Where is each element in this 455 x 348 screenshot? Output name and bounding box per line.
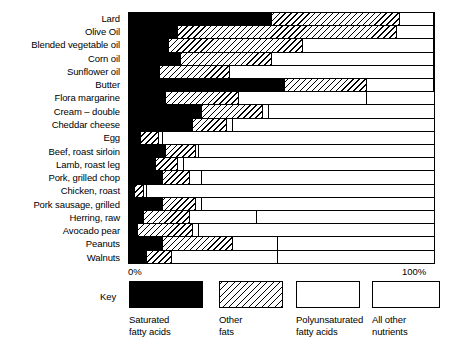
bar-row bbox=[129, 13, 434, 26]
legend-item: Other fats bbox=[219, 281, 293, 337]
legend-item: Polyunsaturated fatty acids bbox=[296, 281, 370, 337]
category-label: Egg bbox=[0, 131, 124, 144]
bar-segment bbox=[166, 145, 197, 157]
bar-segment bbox=[147, 251, 171, 263]
bar-segment bbox=[202, 171, 434, 183]
bar-segment bbox=[239, 92, 367, 104]
bar-segment bbox=[129, 211, 144, 223]
bar-segment bbox=[129, 224, 138, 236]
bar-segment bbox=[129, 39, 169, 51]
x-axis-tick-min: 0% bbox=[128, 266, 142, 277]
bar-segment bbox=[129, 171, 163, 183]
bar-row bbox=[129, 105, 434, 118]
bar-row bbox=[129, 237, 434, 250]
bar-segment bbox=[141, 132, 159, 144]
bar-row bbox=[129, 92, 434, 105]
bar-segment bbox=[278, 237, 434, 249]
legend-label: Other fats bbox=[219, 314, 293, 337]
bar-segment bbox=[400, 13, 434, 25]
bar-segment bbox=[285, 79, 367, 91]
bar-segment bbox=[190, 211, 257, 223]
category-label: Lard bbox=[0, 12, 124, 25]
category-label: Beef, roast sirloin bbox=[0, 145, 124, 158]
bar-segment bbox=[129, 251, 147, 263]
bar-segment bbox=[156, 158, 177, 170]
category-label: Lamb, roast leg bbox=[0, 158, 124, 171]
bar-segment bbox=[129, 132, 141, 144]
bar-segment bbox=[272, 53, 434, 65]
bar-rows bbox=[129, 13, 434, 263]
fat-composition-chart: LardOlive OilBlended vegetable oilCorn o… bbox=[0, 0, 455, 348]
bar-row bbox=[129, 185, 434, 198]
category-label: Pork, grilled chop bbox=[0, 171, 124, 184]
bar-segment bbox=[129, 26, 178, 38]
category-label: Pork sausage, grilled bbox=[0, 198, 124, 211]
bar-row bbox=[129, 66, 434, 79]
category-axis-labels: LardOlive OilBlended vegetable oilCorn o… bbox=[0, 12, 124, 264]
bar-segment bbox=[230, 66, 434, 78]
bar-segment bbox=[144, 211, 190, 223]
bar-row bbox=[129, 39, 434, 52]
category-label: Chicken, roast bbox=[0, 184, 124, 197]
category-label: Flora margarine bbox=[0, 92, 124, 105]
bar-segment bbox=[178, 26, 398, 38]
bar-segment bbox=[147, 185, 434, 197]
bar-segment bbox=[166, 92, 239, 104]
category-label: Walnuts bbox=[0, 251, 124, 264]
bar-row bbox=[129, 132, 434, 145]
legend-swatch bbox=[129, 281, 203, 308]
legend-swatch bbox=[296, 281, 360, 308]
bar-segment bbox=[163, 132, 434, 144]
bar-segment bbox=[129, 145, 166, 157]
legend-item: All other nutrients bbox=[372, 281, 446, 337]
bar-segment bbox=[129, 119, 193, 131]
bar-segment bbox=[163, 198, 197, 210]
bar-segment bbox=[190, 171, 202, 183]
bar-segment bbox=[129, 158, 156, 170]
bar-row bbox=[129, 198, 434, 211]
bar-segment bbox=[163, 237, 233, 249]
bar-segment bbox=[172, 251, 279, 263]
bar-segment bbox=[129, 105, 202, 117]
legend-item: Saturated fatty acids bbox=[129, 281, 203, 337]
bar-segment bbox=[257, 211, 434, 223]
bar-segment bbox=[129, 79, 285, 91]
bar-segment bbox=[367, 92, 434, 104]
bar-segment bbox=[199, 224, 434, 236]
bar-segment bbox=[233, 119, 434, 131]
bar-segment bbox=[138, 224, 193, 236]
bar-segment bbox=[129, 13, 272, 25]
category-label: Sunflower oil bbox=[0, 65, 124, 78]
legend-label: Saturated fatty acids bbox=[129, 314, 203, 337]
bar-segment bbox=[129, 92, 166, 104]
x-axis-tick-max: 100% bbox=[402, 266, 426, 277]
bar-segment bbox=[269, 105, 434, 117]
bar-segment bbox=[202, 105, 263, 117]
bar-row bbox=[129, 26, 434, 39]
category-label: Cheddar cheese bbox=[0, 118, 124, 131]
bar-row bbox=[129, 53, 434, 66]
category-label: Corn oil bbox=[0, 52, 124, 65]
category-label: Blended vegetable oil bbox=[0, 39, 124, 52]
category-label: Peanuts bbox=[0, 238, 124, 251]
bar-segment bbox=[163, 171, 190, 183]
legend-title: Key bbox=[100, 291, 116, 302]
bar-segment bbox=[129, 53, 181, 65]
bar-row bbox=[129, 145, 434, 158]
legend: Saturated fatty acidsOther fatsPolyunsat… bbox=[129, 281, 447, 343]
category-label: Avocado pear bbox=[0, 224, 124, 237]
bar-segment bbox=[181, 53, 273, 65]
bar-segment bbox=[272, 13, 400, 25]
bar-segment bbox=[193, 119, 227, 131]
bar-segment bbox=[169, 39, 303, 51]
bar-segment bbox=[135, 185, 144, 197]
bar-segment bbox=[129, 237, 163, 249]
legend-label: Polyunsaturated fatty acids bbox=[296, 314, 370, 337]
category-label: Olive Oil bbox=[0, 25, 124, 38]
legend-swatch bbox=[372, 281, 440, 308]
bar-segment bbox=[199, 145, 434, 157]
category-label: Herring, raw bbox=[0, 211, 124, 224]
bar-row bbox=[129, 79, 434, 92]
bar-segment bbox=[233, 237, 279, 249]
bar-row bbox=[129, 171, 434, 184]
